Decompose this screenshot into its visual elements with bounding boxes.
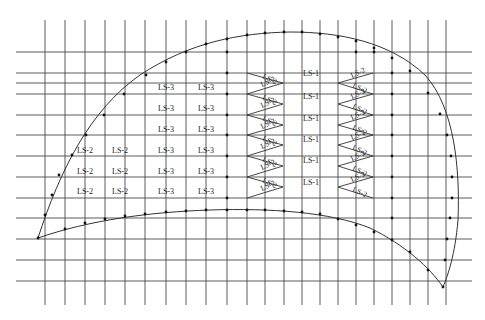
- ls2-label: LS-2: [77, 187, 93, 196]
- node-dot: [373, 47, 376, 50]
- node-dot: [264, 32, 267, 35]
- node-dot: [84, 222, 87, 225]
- node-dot: [283, 31, 286, 34]
- node-dot: [226, 176, 229, 179]
- node-dot: [391, 239, 394, 242]
- node-dot: [446, 134, 449, 137]
- node-dot: [427, 269, 430, 272]
- node-dot: [449, 217, 452, 220]
- ls3-label: LS-3: [198, 146, 214, 155]
- node-dot: [409, 70, 412, 73]
- ls2-label: LS-2: [112, 187, 128, 196]
- ls3-label: LS-3: [158, 104, 174, 113]
- ls1-label: LS-1: [303, 114, 319, 123]
- ls3-label: LS-3: [158, 125, 174, 134]
- ls3-label: LS-3: [198, 167, 214, 176]
- ls3-label: LS-3: [158, 167, 174, 176]
- node-dot: [103, 114, 106, 117]
- ls1-label: LS-1: [303, 178, 319, 187]
- node-dot: [451, 176, 454, 179]
- node-dot: [355, 51, 358, 54]
- node-dot: [391, 93, 394, 96]
- node-dot: [391, 155, 394, 158]
- node-dot: [319, 213, 322, 216]
- node-dot: [205, 43, 208, 46]
- node-dot: [185, 210, 188, 213]
- node-dot: [205, 209, 208, 212]
- ls3-label: LS-3: [158, 146, 174, 155]
- node-dot: [391, 114, 394, 117]
- node-dot: [104, 218, 107, 221]
- node-dot: [444, 259, 447, 262]
- node-dot: [283, 210, 286, 213]
- ls1-label: LS-1: [303, 69, 319, 78]
- boundary-curve-lower: [38, 210, 443, 287]
- ls2-diagonal-label: LS-2: [351, 185, 369, 200]
- node-dot: [246, 209, 249, 212]
- node-dot: [71, 154, 74, 157]
- node-dot: [319, 33, 322, 36]
- node-dot: [226, 114, 229, 117]
- ls2-label: LS-2: [77, 167, 93, 176]
- ls2-label: LS-2: [112, 167, 128, 176]
- node-dot: [391, 176, 394, 179]
- node-dot: [144, 213, 147, 216]
- node-dot: [337, 36, 340, 39]
- node-dot: [37, 237, 40, 240]
- node-dot: [124, 215, 127, 218]
- node-dot: [391, 134, 394, 137]
- node-dot: [450, 155, 453, 158]
- node-dot: [442, 286, 445, 289]
- node-dot: [226, 197, 229, 200]
- node-dot: [246, 34, 249, 37]
- vertical-grid-lines: [45, 20, 446, 305]
- node-dot: [123, 93, 126, 96]
- node-dot: [64, 228, 67, 231]
- node-dot: [337, 218, 340, 221]
- ls3-label: LS-3: [158, 187, 174, 196]
- node-dot: [391, 217, 394, 220]
- node-dot: [44, 214, 47, 217]
- node-dot: [165, 61, 168, 64]
- ls3-label: LS-3: [198, 83, 214, 92]
- node-dot: [391, 72, 394, 75]
- ls3-label: LS-3: [158, 83, 174, 92]
- node-dot: [439, 113, 442, 116]
- node-dot: [373, 231, 376, 234]
- node-dot: [451, 197, 454, 200]
- node-dot: [301, 31, 304, 34]
- boundary-curve-upper: [38, 32, 458, 287]
- node-dot: [391, 197, 394, 200]
- node-dot: [145, 74, 148, 77]
- node-dot: [51, 194, 54, 197]
- node-dot: [226, 93, 229, 96]
- ls2-label: LS-2: [77, 146, 93, 155]
- node-dot: [409, 251, 412, 254]
- ls2-label: LS-2: [112, 146, 128, 155]
- node-dot: [427, 92, 430, 95]
- node-dot: [226, 134, 229, 137]
- node-dot: [226, 155, 229, 158]
- diagram-canvas: LS-2LS-2LS-2LS-2LS-2LS-2LS-2LS-2LS-2LS-2…: [0, 0, 485, 320]
- node-dot: [355, 224, 358, 227]
- boundary-nodes: [37, 31, 454, 289]
- ls3-label: LS-3: [198, 187, 214, 196]
- node-dot: [226, 209, 229, 212]
- node-dot: [391, 57, 394, 60]
- node-dot: [264, 209, 267, 212]
- ls1-label: LS-1: [303, 156, 319, 165]
- ls1-label: LS-1: [303, 135, 319, 144]
- node-dot: [373, 51, 376, 54]
- grid-diagram: LS-2LS-2LS-2LS-2LS-2LS-2LS-2LS-2LS-2LS-2…: [0, 0, 485, 320]
- node-dot: [58, 174, 61, 177]
- ls3-label: LS-3: [198, 125, 214, 134]
- node-dot: [226, 38, 229, 41]
- node-dot: [446, 238, 449, 241]
- ls1-label: LS-1: [303, 92, 319, 101]
- node-dot: [226, 72, 229, 75]
- node-dot: [301, 211, 304, 214]
- node-dot: [226, 51, 229, 54]
- node-dot: [355, 40, 358, 43]
- node-dot: [185, 51, 188, 54]
- node-dot: [85, 134, 88, 137]
